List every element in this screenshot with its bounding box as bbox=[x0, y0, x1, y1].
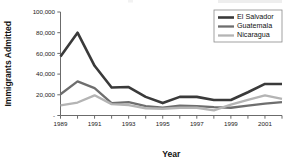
legend-label-el-salvador: El Salvador bbox=[237, 12, 274, 21]
y-tick-label-80000: 80,000 bbox=[36, 29, 55, 36]
top-crop-artifact bbox=[218, 0, 282, 3]
legend-label-guatemala: Guatemala bbox=[237, 21, 272, 30]
x-tick-label-1989: 1989 bbox=[54, 120, 68, 127]
x-tick-label-2001: 2001 bbox=[258, 120, 272, 127]
top-crop-artifact-dot bbox=[128, 0, 133, 3]
y-tick-label-20000: 20,000 bbox=[36, 91, 55, 98]
x-axis-title: Year bbox=[162, 149, 181, 159]
x-tick-label-1997: 1997 bbox=[190, 120, 204, 127]
series-line-el-salvador bbox=[61, 33, 283, 103]
y-axis-title: Immigrants Admitted bbox=[3, 21, 13, 107]
chart-canvas: -20,00040,00060,00080,000100,00019891991… bbox=[0, 0, 287, 161]
x-tick-label-1995: 1995 bbox=[156, 120, 170, 127]
y-tick-label-40000: 40,000 bbox=[36, 70, 55, 77]
y-tick-label-0: - bbox=[53, 112, 55, 119]
legend-label-nicaragua: Nicaragua bbox=[237, 30, 270, 39]
y-tick-label-60000: 60,000 bbox=[36, 50, 55, 57]
immigrants-admitted-line-chart: -20,00040,00060,00080,000100,00019891991… bbox=[0, 0, 287, 161]
x-tick-label-1999: 1999 bbox=[224, 120, 238, 127]
x-tick-label-1993: 1993 bbox=[122, 120, 136, 127]
y-tick-label-100000: 100,000 bbox=[33, 8, 56, 15]
series-line-nicaragua bbox=[61, 95, 283, 110]
x-tick-label-1991: 1991 bbox=[88, 120, 102, 127]
